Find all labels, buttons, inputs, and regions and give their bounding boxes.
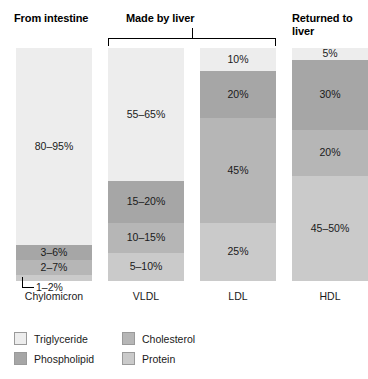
bar-segment-cholesterol: 45% — [200, 118, 276, 223]
bar-vldl: 55–65%15–20%10–15%5–10% — [108, 48, 184, 281]
bar-column-hdl: 5%30%20%45–50%HDL — [292, 48, 368, 281]
segment-value-label: 20% — [319, 147, 340, 158]
stacked-bar-chart: 80–95%3–6%2–7%Chylomicron55–65%15–20%10–… — [0, 0, 368, 379]
legend-swatch-phospholipid — [14, 352, 27, 365]
bar-segment-triglyceride: 10% — [200, 48, 276, 71]
bar-segment-triglyceride: 80–95% — [16, 48, 92, 245]
bar-segment-protein: 25% — [200, 223, 276, 281]
bar-segment-phospholipid: 20% — [200, 71, 276, 118]
segment-value-label: 10–15% — [127, 232, 166, 243]
segment-value-label: 45% — [227, 165, 248, 176]
segment-value-label: 5–10% — [130, 261, 163, 272]
legend-label: Protein — [142, 353, 175, 365]
segment-value-label: 5% — [322, 48, 337, 59]
legend-swatch-protein — [122, 352, 135, 365]
segment-value-label: 10% — [227, 54, 248, 65]
category-label-vldl: VLDL — [108, 290, 184, 302]
segment-value-label: 45–50% — [311, 223, 350, 234]
bar-column-chylomicron: 80–95%3–6%2–7%Chylomicron — [16, 48, 92, 281]
category-label-ldl: LDL — [200, 290, 276, 302]
segment-value-label: 15–20% — [127, 196, 166, 207]
bar-segment-triglyceride: 5% — [292, 48, 368, 60]
bar-segment-cholesterol: 2–7% — [16, 260, 92, 275]
segment-value-label: 2–7% — [41, 262, 68, 273]
bar-ldl: 10%20%45%25% — [200, 48, 276, 281]
legend-item-phospholipid[interactable]: Phospholipid — [14, 352, 94, 365]
segment-value-label: 55–65% — [127, 109, 166, 120]
segment-value-label: 3–6% — [41, 247, 68, 258]
bar-segment-protein: 45–50% — [292, 176, 368, 281]
legend-label: Phospholipid — [34, 353, 94, 365]
bar-column-vldl: 55–65%15–20%10–15%5–10%VLDL — [108, 48, 184, 281]
bar-segment-phospholipid: 30% — [292, 60, 368, 130]
bar-segment-cholesterol: 20% — [292, 130, 368, 177]
bar-column-ldl: 10%20%45%25%LDL — [200, 48, 276, 281]
bar-chylomicron: 80–95%3–6%2–7% — [16, 48, 92, 281]
segment-value-label: 80–95% — [35, 141, 74, 152]
legend-item-triglyceride[interactable]: Triglyceride — [14, 332, 88, 345]
bar-hdl: 5%30%20%45–50% — [292, 48, 368, 281]
legend-swatch-cholesterol — [122, 332, 135, 345]
bar-segment-triglyceride: 55–65% — [108, 48, 184, 181]
bar-segment-protein: 5–10% — [108, 253, 184, 281]
segment-value-label: 25% — [227, 246, 248, 257]
segment-value-label: 30% — [319, 89, 340, 100]
callout-label-protein: 1–2% — [36, 282, 63, 293]
category-label-hdl: HDL — [292, 290, 368, 302]
bar-segment-phospholipid: 15–20% — [108, 181, 184, 223]
legend-label: Triglyceride — [34, 333, 88, 345]
legend-label: Cholesterol — [142, 333, 195, 345]
legend-item-cholesterol[interactable]: Cholesterol — [122, 332, 195, 345]
bar-segment-cholesterol: 10–15% — [108, 223, 184, 253]
legend-item-protein[interactable]: Protein — [122, 352, 175, 365]
legend-swatch-triglyceride — [14, 332, 27, 345]
bar-segment-phospholipid: 3–6% — [16, 245, 92, 260]
segment-value-label: 20% — [227, 89, 248, 100]
